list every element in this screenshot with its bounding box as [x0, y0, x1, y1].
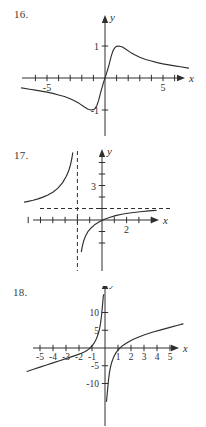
axes-group: xy — [22, 11, 194, 136]
curves-group — [25, 153, 157, 252]
ticks-group — [28, 163, 151, 244]
x-tick-label: 4 — [155, 352, 160, 362]
x-tick-label: 5 — [161, 82, 166, 93]
y-tick-label: 10 — [90, 308, 100, 318]
x-tick-label: -5 — [36, 352, 44, 362]
curve-path — [106, 324, 183, 401]
y-tick-label: 1 — [94, 41, 99, 52]
x-tick-label: 5 — [168, 352, 173, 362]
y-axis-arrow — [99, 149, 105, 157]
x-tick-label: 2 — [124, 224, 129, 235]
x-axis-arrow — [177, 75, 185, 81]
problem-panel-17: 17. xy23 — [0, 143, 206, 286]
problem-panel-18: 18. xy-5-4-3-2-112345105-5-10 — [0, 286, 206, 427]
curve-path — [81, 210, 156, 251]
x-axis-arrow — [151, 217, 159, 223]
y-axis-arrow — [102, 15, 108, 23]
y-tick-label: -10 — [86, 379, 99, 389]
graph-18: xy-5-4-3-2-112345105-5-10 — [0, 286, 206, 427]
x-axis-arrow — [171, 345, 179, 351]
problem-panel-16: 16. xy-551-1 — [0, 0, 206, 143]
x-tick-label: -3 — [62, 352, 70, 362]
y-axis-label: y — [109, 11, 115, 23]
y-axis-arrow — [102, 286, 108, 289]
graph-16: xy-551-1 — [0, 0, 206, 143]
graph-17: xy23 — [0, 143, 206, 286]
x-axis-label: x — [182, 343, 188, 354]
x-axis-label: x — [162, 214, 168, 226]
y-tick-label: -5 — [91, 361, 99, 371]
y-tick-label: -1 — [91, 105, 99, 116]
x-tick-label: 2 — [129, 352, 134, 362]
y-tick-label: 3 — [91, 181, 96, 192]
tick-labels-group: 23 — [91, 181, 129, 236]
x-tick-label: 3 — [142, 352, 147, 362]
y-axis-label: y — [106, 145, 112, 157]
y-axis-label: y — [109, 286, 115, 289]
curve-path — [25, 153, 73, 202]
x-tick-label: 1 — [116, 352, 121, 362]
x-tick-label: -4 — [49, 352, 57, 362]
x-axis-label: x — [188, 72, 194, 84]
